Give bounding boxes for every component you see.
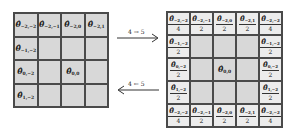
fraction: θ̂0,−22: [262, 61, 279, 78]
grid-cell: θ̂0,0: [62, 61, 84, 83]
grid-cell: [191, 59, 212, 80]
fraction: θ̂−2,−24: [168, 15, 188, 32]
theta-hat-symbol: θ̂−2,−1: [39, 20, 60, 30]
grid-cell: [237, 59, 258, 80]
fraction: θ̂−2,12: [239, 107, 256, 124]
grid-cell-border: θ̂−1,−22: [260, 36, 281, 57]
fraction: θ̂1,−22: [262, 84, 279, 101]
grid-cell-border: θ̂−2,−12: [191, 13, 212, 34]
grid-cell: θ̂1,−2: [15, 85, 37, 107]
grid-cell: [39, 61, 61, 83]
grid-cell-border: θ̂−2,−24: [260, 13, 281, 34]
theta-hat-symbol: θ̂1,−2: [17, 91, 34, 101]
grid-cell: [62, 38, 84, 60]
fraction: θ̂0,−22: [170, 61, 187, 78]
grid-cell: [214, 36, 235, 57]
grid-cell: [214, 82, 235, 103]
grid-cell: θ̂0,0: [214, 59, 235, 80]
fraction: θ̂−1,−22: [260, 38, 280, 55]
grid-cell: θ̂−2,−2: [15, 14, 37, 36]
grid-cell: [86, 85, 108, 107]
grid-cell: [237, 36, 258, 57]
fraction: θ̂−2,12: [239, 15, 256, 32]
theta-hat-symbol: θ̂−2,1: [88, 20, 105, 30]
grid-cell: [191, 82, 212, 103]
theta-hat-symbol: θ̂−1,−2: [15, 44, 36, 54]
grid-cell-border: θ̂−2,12: [237, 105, 258, 126]
grid-cell: θ̂−1,−2: [15, 38, 37, 60]
left-arrow-icon: [116, 85, 160, 95]
fraction: θ̂−2,−12: [191, 15, 211, 32]
theta-hat-symbol: θ̂0,0: [66, 67, 79, 77]
grid-cell-border: θ̂−1,−22: [168, 36, 189, 57]
grid-cell: [86, 38, 108, 60]
fraction: θ̂−2,−24: [260, 107, 280, 124]
fraction: θ̂−2,−24: [260, 15, 280, 32]
grid-cell: [39, 85, 61, 107]
grid-cell-border: θ̂−2,−12: [191, 105, 212, 126]
theta-hat-symbol: θ̂0,0: [218, 65, 231, 75]
grid-cell: [62, 85, 84, 107]
grid-cell: [237, 82, 258, 103]
grid-cell-border: θ̂0,−22: [168, 59, 189, 80]
right-grid-5x5: θ̂−2,−24θ̂−2,−12θ̂−2,02θ̂−2,12θ̂−2,−24θ̂…: [166, 11, 283, 128]
fraction: θ̂−2,−12: [191, 107, 211, 124]
grid-cell: [86, 61, 108, 83]
grid-cell: θ̂−2,0: [62, 14, 84, 36]
grid-cell: θ̂−2,−1: [39, 14, 61, 36]
grid-cell: θ̂−2,1: [86, 14, 108, 36]
theta-hat-symbol: θ̂0,−2: [17, 67, 34, 77]
grid-cell-border: θ̂−2,02: [214, 105, 235, 126]
fraction: θ̂1,−22: [170, 84, 187, 101]
fraction: θ̂−2,02: [216, 107, 233, 124]
grid-cell: θ̂0,−2: [15, 61, 37, 83]
grid-cell-border: θ̂1,−22: [260, 82, 281, 103]
theta-hat-symbol: θ̂−2,0: [64, 20, 81, 30]
grid-cell-border: θ̂−2,−24: [168, 105, 189, 126]
grid-cell: [191, 36, 212, 57]
grid-cell-border: θ̂−2,12: [237, 13, 258, 34]
grid-cell-border: θ̂−2,−24: [260, 105, 281, 126]
fraction: θ̂−1,−22: [168, 38, 188, 55]
grid-cell-border: θ̂0,−22: [260, 59, 281, 80]
theta-hat-symbol: θ̂−2,−2: [15, 20, 36, 30]
grid-cell-border: θ̂−2,−24: [168, 13, 189, 34]
grid-cell-border: θ̂1,−22: [168, 82, 189, 103]
grid-cell-border: θ̂−2,02: [214, 13, 235, 34]
right-arrow-icon: [116, 33, 160, 43]
left-grid-4x4: θ̂−2,−2θ̂−2,−1θ̂−2,0θ̂−2,1θ̂−1,−2θ̂0,−2θ…: [13, 12, 109, 108]
fraction: θ̂−2,02: [216, 15, 233, 32]
fraction: θ̂−2,−24: [168, 107, 188, 124]
grid-cell: [39, 38, 61, 60]
